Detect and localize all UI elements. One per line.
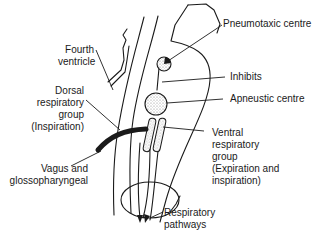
leader-ventral: [163, 127, 204, 131]
label-vagus-glossopharyngeal: Vagus and glossopharyngeal: [4, 163, 88, 187]
leader-inhibits: [162, 77, 225, 82]
label-fourth-ventricle: Fourth ventricle: [58, 44, 94, 68]
leader-apneustic: [167, 99, 223, 103]
label-pneumotaxic-centre: Pneumotaxic centre: [223, 18, 311, 30]
apneustic-centre-node: [145, 93, 167, 115]
respiratory-centres-diagram: Pneumotaxic centre Fourth ventricle Inhi…: [0, 0, 320, 238]
pathway-arrow-1: [137, 215, 143, 223]
leader-dorsal: [86, 100, 120, 130]
label-respiratory-pathways: Respiratory pathways: [164, 207, 215, 231]
leader-fourth-ventricle: [96, 50, 113, 90]
label-inhibits: Inhibits: [230, 71, 262, 83]
fourth-ventricle-shape: [108, 29, 127, 82]
vagus-nerve: [98, 129, 146, 150]
leader-pneumotaxic: [168, 25, 222, 61]
label-dorsal-respiratory-group: Dorsal respiratory group (Inspiration): [10, 85, 84, 133]
label-ventral-respiratory-group: Ventral respiratory group (Expiration an…: [212, 127, 279, 187]
label-apneustic-centre: Apneustic centre: [230, 93, 305, 105]
